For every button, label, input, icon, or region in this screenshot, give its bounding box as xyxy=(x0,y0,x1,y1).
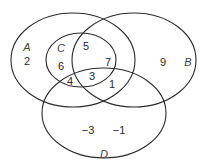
set-b-ellipse xyxy=(72,13,196,107)
element-value: −1 xyxy=(113,124,126,136)
element-value: 5 xyxy=(83,40,89,52)
element-value: 3 xyxy=(89,70,95,82)
set-d-ellipse xyxy=(42,68,166,158)
element-value: 1 xyxy=(109,78,115,90)
set-elements: 2 6 5 7 3 4 1 9 −3 −1 xyxy=(24,40,166,136)
set-a-label: A xyxy=(22,41,30,53)
set-rings xyxy=(11,13,196,158)
element-value: 4 xyxy=(67,75,73,87)
set-d-label: D xyxy=(100,148,108,160)
venn-diagram: A B C D 2 6 5 7 3 4 1 9 −3 −1 xyxy=(0,0,206,165)
element-value: 2 xyxy=(24,55,30,67)
set-c-label: C xyxy=(57,42,65,54)
set-b-label: B xyxy=(184,56,191,68)
element-value: 9 xyxy=(160,56,166,68)
element-value: 6 xyxy=(58,60,64,72)
element-value: −3 xyxy=(82,124,95,136)
element-value: 7 xyxy=(105,56,111,68)
